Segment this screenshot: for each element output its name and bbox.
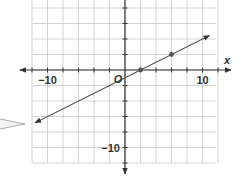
data-line — [35, 36, 209, 123]
x-tick-label: 10 — [196, 74, 208, 86]
x-tick-label: −10 — [38, 74, 57, 86]
marked-point — [169, 52, 174, 57]
line-y-equals-half-x-minus-1 — [35, 36, 209, 123]
y-tick-label: −10 — [101, 142, 120, 154]
coordinate-plane: −1010−10Ox — [0, 0, 245, 187]
marked-point — [138, 68, 143, 73]
x-axis-label: x — [223, 54, 231, 66]
callout-pointer — [0, 119, 25, 129]
origin-label: O — [114, 73, 123, 85]
